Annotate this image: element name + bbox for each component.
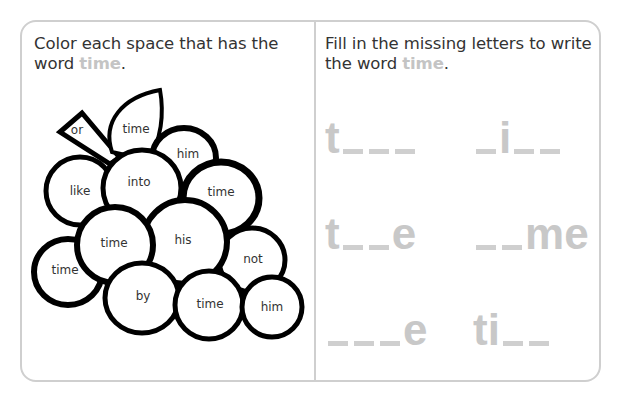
letter-blank[interactable] [476,149,496,154]
fill-instruction: Fill in the missing letters to write the… [325,34,595,74]
letter-blank[interactable] [514,149,534,154]
grape-label-g7: time [51,263,78,277]
grape-label-stem: or [71,123,83,137]
letter-blank[interactable] [343,149,363,154]
instruction-punct: . [444,54,449,73]
letter-blank[interactable] [395,149,415,154]
puzzle-row-3: e ti [325,294,597,354]
grape-label-g6: his [174,233,191,247]
letter-blank[interactable] [476,245,496,250]
puzzle-word[interactable]: t [325,102,418,162]
given-letter: e [403,306,427,354]
given-letter: e [392,210,416,258]
letter-blank[interactable] [343,245,363,250]
letter-blank[interactable] [328,341,348,346]
keyword: time [402,54,444,73]
grape-label-g11: him [261,300,284,314]
puzzle-row-1: t i [325,102,597,162]
given-letter: m [525,210,564,258]
puzzle-word[interactable]: me [473,198,589,258]
letter-blank[interactable] [380,341,400,346]
letter-blank[interactable] [369,149,389,154]
puzzle-word[interactable]: ti [473,294,552,354]
letter-blank[interactable] [503,341,523,346]
letter-blank[interactable] [369,245,389,250]
given-letter: i [499,114,511,162]
instruction-text: Fill in the missing letters to write the… [325,34,592,73]
grape-label-g10: time [196,297,223,311]
grape-label-g4: time [207,185,234,199]
letter-blank[interactable] [502,245,522,250]
puzzle-word[interactable]: te [325,198,416,258]
given-letter: i [488,306,500,354]
letter-blank[interactable] [540,149,560,154]
puzzle-word[interactable]: e [325,294,427,354]
letter-blank[interactable] [354,341,374,346]
puzzle-row-2: te me [325,198,597,258]
grape-bunch: or time him like into time time his time… [2,2,322,372]
grape-label-leaf: time [122,122,149,136]
given-letter: t [473,306,488,354]
grape-label-g1: him [177,147,200,161]
grape-label-g5: time [100,236,127,250]
missing-letter-puzzles: t i te me e ti [325,102,597,362]
puzzle-word[interactable]: i [473,102,563,162]
grape-label-g3: into [128,175,151,189]
given-letter: e [564,210,588,258]
grape-label-g2: like [70,184,91,198]
letter-blank[interactable] [529,341,549,346]
worksheet-frame: Color each space that has the word time. [20,20,601,382]
grape-label-g8: not [243,252,263,266]
given-letter: t [325,210,340,258]
given-letter: t [325,114,340,162]
grape-label-g9: by [136,289,151,303]
